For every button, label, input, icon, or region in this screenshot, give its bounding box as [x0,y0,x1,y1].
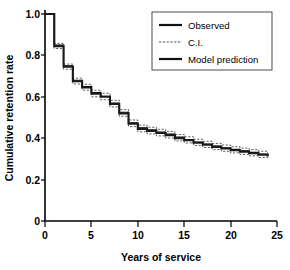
y-tick-label-1_0: 1.0 [25,8,40,20]
y-axis-title: Cumulative retention rate [3,55,15,182]
legend-label-observed: Observed [188,20,230,31]
x-tick-label-20: 20 [225,229,237,241]
x-tick-label-5: 5 [88,229,94,241]
x-tick-label-10: 10 [132,229,144,241]
legend-label-ci: C.I. [188,37,203,48]
y-tick-label-0_4: 0.4 [25,132,40,144]
y-tick-label-0_8: 0.8 [25,49,40,61]
figure-container: Cumulative retention rate Years of servi… [0,0,290,270]
x-tick-marks [45,221,277,227]
x-tick-label-0: 0 [42,229,48,241]
y-tick-label-0_6: 0.6 [25,91,40,103]
y-tick-label-0_2: 0.2 [25,174,40,186]
x-axis-title: Years of service [121,251,201,263]
legend: Observed C.I. Model prediction [152,12,272,70]
x-tick-label-25: 25 [271,229,283,241]
legend-label-model-prediction: Model prediction [188,54,258,65]
y-tick-label-0: 0 [34,215,40,227]
x-tick-label-15: 15 [178,229,190,241]
scan-artifact-text [2,258,58,265]
retention-curve-chart: Cumulative retention rate Years of servi… [0,0,290,270]
